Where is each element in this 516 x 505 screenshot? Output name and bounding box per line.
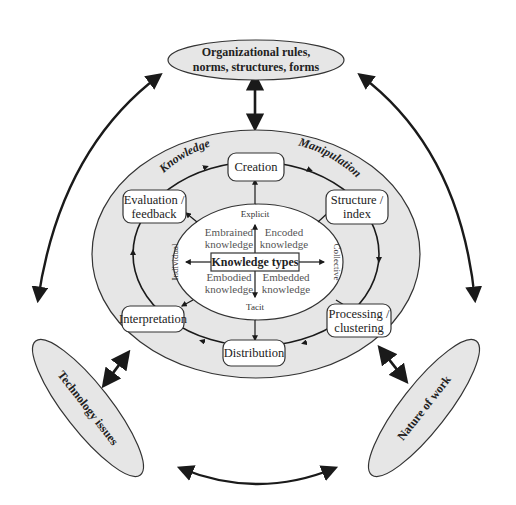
external-factor-technology: Technology issues	[18, 327, 159, 489]
step-creation-label: Creation	[234, 160, 278, 174]
arrow-left-to-right	[180, 468, 335, 484]
arrow-left-to-ring	[104, 353, 128, 385]
step-evaluation-feedback: Evaluation / feedback	[123, 190, 186, 223]
step-processing-label-line2: clustering	[334, 321, 384, 335]
quadrant-embrained-line2: knowledge	[205, 238, 253, 250]
organizational-label-line1: Organizational rules,	[202, 45, 311, 59]
axis-collective: Collective	[332, 244, 342, 281]
external-factor-nature-of-work: Nature of work	[354, 327, 495, 489]
organizational-label-line2: norms, structures, forms	[193, 60, 320, 74]
external-factor-organizational: Organizational rules, norms, structures,…	[168, 40, 344, 80]
step-structure-label-line2: index	[343, 207, 372, 221]
quadrant-embodied-line2: knowledge	[205, 283, 253, 295]
step-structure-label-line1: Structure /	[331, 193, 384, 207]
arrow-right-to-ring	[380, 348, 406, 381]
axis-individual: Individual	[170, 243, 180, 280]
step-structure-index: Structure / index	[326, 190, 388, 224]
step-distribution: Distribution	[223, 340, 285, 366]
quadrant-embrained-line1: Embrained	[205, 226, 254, 238]
axis-tacit: Tacit	[246, 302, 264, 312]
quadrant-embodied-line1: Embodied	[206, 271, 252, 283]
step-interpretation-label: Interpretation	[119, 312, 188, 326]
quadrant-embedded-line2: knowledge	[262, 283, 310, 295]
step-interpretation: Interpretation	[119, 306, 188, 332]
quadrant-encoded-line2: knowledge	[260, 238, 308, 250]
knowledge-types-title: Knowledge types	[212, 255, 299, 269]
step-processing-clustering: Processing / clustering	[327, 304, 391, 337]
quadrant-encoded-line1: Encoded	[265, 226, 304, 238]
step-distribution-label: Distribution	[224, 346, 285, 360]
step-creation: Creation	[228, 153, 284, 181]
step-evaluation-label-line2: feedback	[131, 207, 177, 221]
knowledge-types-center-box: Knowledge types	[211, 253, 299, 271]
axis-explicit: Explicit	[241, 209, 270, 219]
knowledge-cycle-diagram: Organizational rules, norms, structures,…	[0, 0, 516, 505]
step-processing-label-line1: Processing /	[329, 307, 390, 321]
step-evaluation-label-line1: Evaluation /	[124, 193, 185, 207]
quadrant-embedded-line1: Embedded	[262, 271, 310, 283]
